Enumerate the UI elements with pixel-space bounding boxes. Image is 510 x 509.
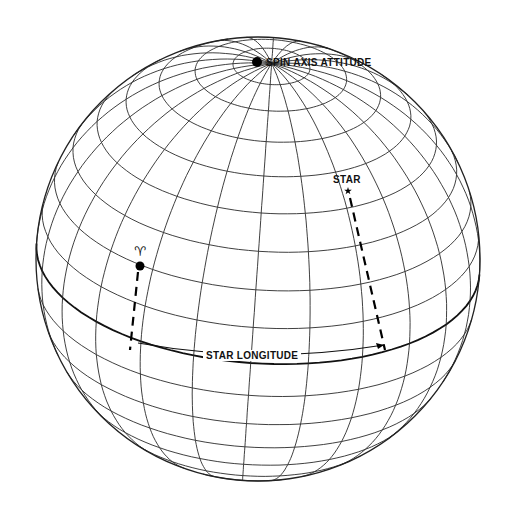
vernal-equinox-point-icon [136,262,145,271]
meridian-line [272,64,471,383]
meridian-line [243,64,272,481]
celestial-sphere-diagram [0,0,510,509]
meridian-line [272,64,410,466]
meridian-line [140,64,272,469]
spin-axis-pole-icon [252,57,262,67]
meridian-line [272,64,447,439]
arrowhead-icon [376,343,384,349]
meridian-line [62,64,272,419]
latitude-line [55,163,471,291]
meridian-line [192,64,272,477]
latitude-line [73,125,457,252]
annotations [130,57,385,355]
meridian-line [272,64,480,275]
star-meridian-dashed-line [350,198,385,350]
meridian-line [272,64,364,477]
meridian-line [42,64,272,356]
sphere-grid [37,37,480,481]
star-longitude-label: STAR LONGITUDE [203,350,301,361]
star-icon [344,187,352,194]
latitude-line [97,90,436,214]
latitude-line [126,59,411,176]
meridian-line [37,63,272,244]
meridian-line [271,64,310,481]
meridian-line [73,59,271,136]
meridian-line [272,63,458,162]
star-label: STAR [333,174,361,185]
meridian-line [96,64,272,452]
vernal-equinox-icon: ♈ [134,244,146,259]
spin-axis-label: SPIN AXIS ATTITUDE [266,57,372,68]
